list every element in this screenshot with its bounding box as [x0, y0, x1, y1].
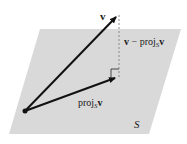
label-plane-s: S — [134, 119, 140, 130]
label-proj-tail: v — [98, 97, 103, 108]
label-v: v — [100, 11, 106, 22]
label-proj-main: proj — [78, 97, 94, 108]
label-residual: v − projSv — [124, 37, 164, 49]
origin-point — [23, 109, 28, 114]
projection-diagram — [0, 0, 187, 144]
label-residual-v: v — [124, 36, 129, 47]
label-residual-tail: v — [159, 36, 164, 47]
label-residual-proj: proj — [140, 36, 156, 47]
label-residual-minus: − — [132, 36, 138, 47]
label-proj: projSv — [78, 98, 103, 110]
